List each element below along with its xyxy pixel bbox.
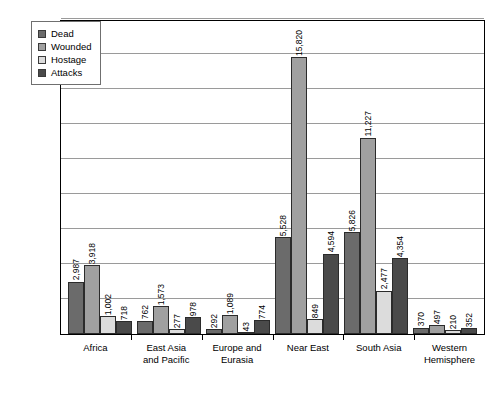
bar-value-label: 11,227: [364, 111, 373, 136]
bar-value-label: 2,987: [71, 259, 80, 280]
bar-value-label: 2,477: [380, 268, 389, 289]
bar[interactable]: 4,594: [323, 254, 339, 334]
category-label-line2: Eurasia: [202, 354, 273, 366]
category-label-line2: and Pacific: [131, 354, 202, 366]
bar[interactable]: 718: [116, 321, 132, 334]
bar-value-label: 4,594: [327, 231, 336, 252]
bar[interactable]: 849: [307, 319, 323, 334]
bar-slot: 4,594: [323, 21, 339, 334]
bar-value-label: 1,002: [103, 294, 112, 315]
bar-value-label: 774: [258, 305, 267, 319]
gridline: [61, 18, 484, 19]
legend-item-hostage[interactable]: Hostage: [38, 53, 92, 66]
bar-value-label: 352: [465, 313, 474, 327]
bar[interactable]: 370: [413, 328, 429, 334]
bar[interactable]: 3,918: [84, 265, 100, 334]
bar-plot-area: 2,9873,9181,0027187621,5732779782921,089…: [61, 21, 484, 334]
bar-value-label: 497: [433, 310, 442, 324]
bar-slot: 1,002: [100, 21, 116, 334]
chart-screenshot: 2,9873,9181,0027187621,5732779782921,089…: [0, 0, 504, 395]
legend-item-attacks[interactable]: Attacks: [38, 66, 92, 79]
legend-item-label: Wounded: [51, 41, 92, 52]
x-axis-tick: [202, 335, 203, 340]
bar-slot: 210: [445, 21, 461, 334]
bar[interactable]: 292: [206, 329, 222, 334]
legend-item-label: Dead: [51, 28, 74, 39]
bar[interactable]: 2,477: [376, 291, 392, 334]
bar-value-label: 1,573: [157, 284, 166, 305]
bar-value-label: 4,354: [396, 236, 405, 257]
category-label-line1: Near East: [287, 342, 329, 353]
category-label-africa: Africa: [60, 342, 131, 366]
bar[interactable]: 210: [445, 330, 461, 334]
bar-slot: 1,089: [222, 21, 238, 334]
x-axis-tick: [343, 335, 344, 340]
bar-slot: 1,573: [153, 21, 169, 334]
bar-slot: 497: [429, 21, 445, 334]
legend-item-wounded[interactable]: Wounded: [38, 40, 92, 53]
bar-slot: 277: [169, 21, 185, 334]
legend-item-dead[interactable]: Dead: [38, 27, 92, 40]
bar-value-label: 849: [311, 304, 320, 318]
bar-slot: 5,528: [275, 21, 291, 334]
bar[interactable]: 1,089: [222, 315, 238, 334]
chart-legend: DeadWoundedHostageAttacks: [31, 21, 101, 85]
bar[interactable]: 774: [254, 320, 270, 334]
bar-value-label: 292: [210, 314, 219, 328]
category-label-line1: Europe and: [213, 342, 262, 353]
x-axis-ticks: [60, 335, 485, 341]
bar[interactable]: 1,002: [100, 316, 116, 334]
x-axis-category-labels: AfricaEast Asiaand PacificEurope andEura…: [60, 342, 485, 366]
category-label-east-asia-and-pacific: East Asiaand Pacific: [131, 342, 202, 366]
bar-slot: 43: [238, 21, 254, 334]
bar-value-label: 370: [417, 312, 426, 326]
bar[interactable]: 5,826: [344, 232, 360, 334]
bar[interactable]: 762: [137, 321, 153, 334]
bar-value-label: 15,820: [295, 30, 304, 56]
bar[interactable]: 2,987: [68, 282, 84, 334]
category-label-line1: Africa: [83, 342, 107, 353]
square-swatch-icon: [38, 56, 46, 64]
bar[interactable]: 352: [461, 328, 477, 334]
category-label-line1: East Asia: [146, 342, 186, 353]
bar-slot: 15,820: [291, 21, 307, 334]
bar[interactable]: 5,528: [275, 237, 291, 334]
bar-value-label: 718: [119, 306, 128, 320]
category-label-line1: South Asia: [356, 342, 401, 353]
chart-plot-frame: 2,9873,9181,0027187621,5732779782921,089…: [60, 20, 485, 335]
square-swatch-icon: [38, 30, 46, 38]
bar[interactable]: 4,354: [392, 258, 408, 334]
bar[interactable]: 497: [429, 325, 445, 334]
x-axis-tick: [273, 335, 274, 340]
legend-item-label: Hostage: [51, 54, 86, 65]
bar[interactable]: 11,227: [360, 138, 376, 334]
bar[interactable]: 1,573: [153, 306, 169, 334]
bar-value-label: 1,089: [226, 293, 235, 314]
bar-group: 5,82611,2272,4774,354: [342, 21, 411, 334]
bar-value-label: 978: [189, 302, 198, 316]
bar-value-label: 5,826: [348, 210, 357, 231]
bar[interactable]: 43: [238, 332, 254, 334]
legend-item-label: Attacks: [51, 67, 82, 78]
bar[interactable]: 277: [169, 329, 185, 334]
category-label-line1: Western: [432, 342, 467, 353]
bar-slot: 718: [116, 21, 132, 334]
bar-slot: 11,227: [360, 21, 376, 334]
bar-value-label: 210: [449, 315, 458, 329]
bar-value-label: 762: [141, 305, 150, 319]
category-label-europe-and-eurasia: Europe andEurasia: [202, 342, 273, 366]
bar-group: 5,52815,8208494,594: [273, 21, 342, 334]
bar-slot: 292: [206, 21, 222, 334]
x-axis-tick: [131, 335, 132, 340]
category-label-western-hemisphere: WesternHemisphere: [414, 342, 485, 366]
x-axis-tick: [414, 335, 415, 340]
bar-value-label: 277: [173, 314, 182, 328]
bar-slot: 978: [185, 21, 201, 334]
bar[interactable]: 978: [185, 317, 201, 334]
bar-value-label: 43: [242, 322, 251, 331]
bar-slot: 5,826: [344, 21, 360, 334]
bar-group: 2921,08943774: [203, 21, 272, 334]
bar[interactable]: 15,820: [291, 57, 307, 334]
bar-slot: 849: [307, 21, 323, 334]
square-swatch-icon: [38, 43, 46, 51]
